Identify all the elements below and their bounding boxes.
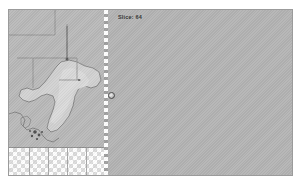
checker-divider <box>29 148 30 175</box>
transparency-checker <box>9 147 104 175</box>
empty-slice-pane[interactable]: Slice: 64 <box>108 10 293 175</box>
cursor-marker[interactable] <box>108 92 115 99</box>
map-geometry <box>9 10 104 147</box>
slice-canvas[interactable]: Slice: 64 <box>8 9 293 176</box>
map-field[interactable] <box>9 10 104 147</box>
checker-divider <box>86 148 87 175</box>
slice-label: Slice: 64 <box>118 13 142 21</box>
checker-divider <box>48 148 49 175</box>
map-pane[interactable] <box>9 10 104 175</box>
slice-viewer: Slice: 64 <box>0 0 300 184</box>
checker-divider <box>67 148 68 175</box>
